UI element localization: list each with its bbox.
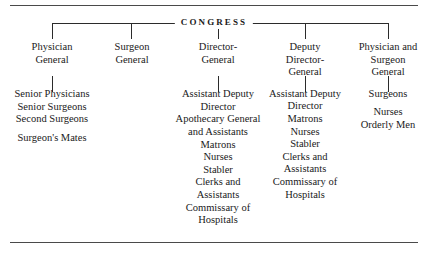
staff-item: Senior Physicians bbox=[0, 88, 104, 101]
staff-item: Commissary of bbox=[162, 202, 274, 215]
connector-drop-physician-general bbox=[52, 23, 53, 39]
staff-item: Assistant Deputy bbox=[258, 88, 352, 101]
branch-physician-and-surgeon-general: Physician and Surgeon General Surgeons N… bbox=[342, 41, 428, 132]
staff-item: Orderly Men bbox=[342, 119, 428, 132]
title-line: General bbox=[258, 66, 352, 79]
title-line: General bbox=[342, 66, 428, 79]
staff-item: Assistants bbox=[258, 163, 352, 176]
staff-item: Surgeons bbox=[342, 88, 428, 101]
staff-list-physician-general: Senior Physicians Senior Surgeons Second… bbox=[0, 88, 104, 144]
branch-deputy-director-general: Deputy Director- General Assistant Deput… bbox=[258, 41, 352, 201]
title-line: Surgeon bbox=[342, 54, 428, 67]
connector-drop-surgeon-general bbox=[131, 23, 132, 39]
staff-item: Nurses bbox=[342, 106, 428, 119]
staff-item: Stabler bbox=[258, 138, 352, 151]
staff-item: Matrons bbox=[258, 113, 352, 126]
staff-item: Surgeon's Mates bbox=[0, 132, 104, 145]
staff-item: Second Surgeons bbox=[0, 113, 104, 126]
title-line: Physician and bbox=[342, 41, 428, 54]
staff-list-physician-and-surgeon-general: Surgeons Nurses Orderly Men bbox=[342, 88, 428, 132]
congress-root-label: CONGRESS bbox=[175, 16, 253, 29]
branch-title-physician-and-surgeon-general: Physician and Surgeon General bbox=[342, 41, 428, 79]
staff-item: Clerks and bbox=[258, 151, 352, 164]
staff-item: Director bbox=[258, 100, 352, 113]
branch-physician-general: Physician General Senior Physicians Seni… bbox=[0, 41, 104, 145]
staff-list-deputy-director-general: Assistant Deputy Director Matrons Nurses… bbox=[258, 88, 352, 201]
connector-drop-deputy-director-general bbox=[305, 23, 306, 39]
bottom-divider-rule bbox=[10, 242, 418, 243]
top-divider-rule bbox=[10, 5, 418, 6]
staff-item: Senior Surgeons bbox=[0, 101, 104, 114]
title-line: General bbox=[0, 54, 104, 67]
title-line: Deputy bbox=[258, 41, 352, 54]
staff-item: Hospitals bbox=[162, 214, 274, 227]
title-line: Director- bbox=[258, 54, 352, 67]
title-line: Physician bbox=[0, 41, 104, 54]
staff-item: Hospitals bbox=[258, 189, 352, 202]
staff-item: Commissary of bbox=[258, 176, 352, 189]
branch-title-deputy-director-general: Deputy Director- General bbox=[258, 41, 352, 79]
connector-drop-physician-and-surgeon-general bbox=[388, 23, 389, 39]
staff-item: Nurses bbox=[258, 126, 352, 139]
branch-title-physician-general: Physician General bbox=[0, 41, 104, 66]
